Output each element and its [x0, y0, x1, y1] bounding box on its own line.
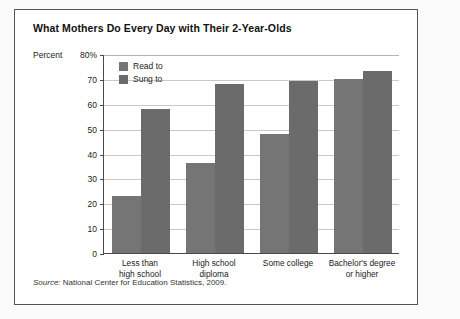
bar-sung-to-group-0: [141, 109, 170, 253]
bar-sung-to-group-3: [363, 71, 392, 253]
legend-label-read-to: Read to: [133, 61, 163, 71]
bar-read-to-group-3: [334, 79, 363, 253]
legend-swatch-sung-to: [119, 75, 128, 84]
category-label-line: Bachelor's degree: [319, 258, 405, 269]
source-note: Source: National Center for Education St…: [33, 278, 226, 287]
category-label-line: or higher: [319, 269, 405, 280]
legend-swatch-read-to: [119, 62, 128, 71]
y-tick-label-30: 30: [88, 174, 97, 184]
y-tick-label-70: 70: [88, 75, 97, 85]
y-tick-label-60: 60: [88, 100, 97, 110]
tick-mark-0: [100, 254, 104, 255]
legend-item-read-to: Read to: [119, 61, 163, 71]
category-label-3: Bachelor's degreeor higher: [319, 258, 405, 280]
bar-sung-to-group-2: [289, 81, 318, 253]
source-text: National Center for Education Statistics…: [63, 278, 227, 287]
chart-legend: Read to Sung to: [119, 61, 163, 87]
chart-title: What Mothers Do Every Day with Their 2-Y…: [33, 22, 292, 34]
y-axis-unit-text: Percent: [33, 50, 62, 60]
y-tick-label-50: 50: [88, 125, 97, 135]
legend-label-sung-to: Sung to: [133, 74, 162, 84]
y-tick-label-40: 40: [88, 150, 97, 160]
source-label: Source:: [33, 278, 61, 287]
y-axis-unit-label: Percent: [33, 50, 62, 60]
bar-sung-to-group-1: [215, 84, 244, 253]
y-tick-label-80: 80%: [80, 50, 97, 60]
bar-read-to-group-1: [186, 163, 215, 253]
bar-read-to-group-2: [260, 134, 289, 253]
legend-item-sung-to: Sung to: [119, 74, 163, 84]
chart-figure: What Mothers Do Every Day with Their 2-Y…: [14, 9, 418, 305]
y-tick-label-10: 10: [88, 224, 97, 234]
bar-read-to-group-0: [112, 196, 141, 253]
y-tick-label-20: 20: [88, 199, 97, 209]
